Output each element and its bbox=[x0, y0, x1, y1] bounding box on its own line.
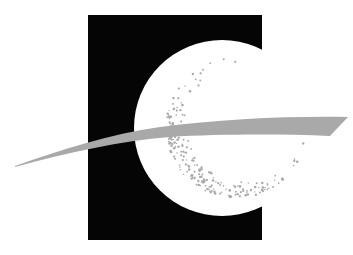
logo-emblem bbox=[0, 0, 353, 255]
